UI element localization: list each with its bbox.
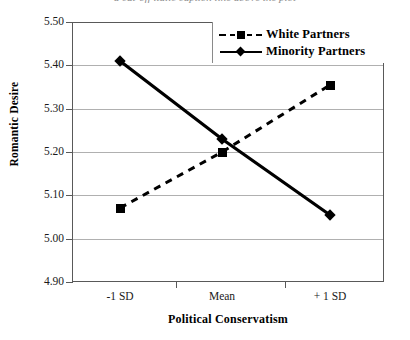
x-tick-mark-2: [285, 282, 286, 288]
legend-label-minority-partners: Minority Partners: [266, 44, 365, 59]
chart-figure: a cut-off italic caption line above the …: [0, 0, 410, 340]
gridline-530: [73, 109, 383, 110]
white-partners-point-1sd-below: [116, 204, 125, 213]
gridline-510: [73, 195, 383, 196]
y-tick-label-550: 5.50: [24, 16, 64, 28]
y-axis-title: Romantic Desire: [8, 54, 20, 194]
y-tick-label-540: 5.40: [24, 59, 64, 71]
square-marker-icon: [219, 29, 263, 41]
x-tick-label-mean: Mean: [177, 290, 267, 302]
legend-item-minority-partners[interactable]: Minority Partners: [213, 43, 384, 60]
y-tick-label-530: 5.30: [24, 103, 64, 115]
x-tick-mark-1: [176, 282, 177, 288]
diamond-marker-icon: [219, 46, 263, 58]
y-tick-mark-490: [66, 282, 73, 283]
gridline-500: [73, 239, 383, 240]
white-partners-point-mean: [218, 148, 227, 157]
gridline-520: [73, 152, 383, 153]
y-tick-label-490: 4.90: [24, 276, 64, 288]
chart-legend: White Partners Minority Partners: [212, 22, 384, 63]
legend-item-white-partners[interactable]: White Partners: [213, 26, 384, 43]
x-tick-label-plus-1-sd: + 1 SD: [285, 290, 375, 302]
x-axis-title: Political Conservatism: [72, 312, 384, 327]
y-tick-label-510: 5.10: [24, 189, 64, 201]
legend-label-white-partners: White Partners: [266, 27, 350, 42]
y-tick-label-500: 5.00: [24, 233, 64, 245]
x-tick-label-minus-1-sd: -1 SD: [75, 290, 165, 302]
y-tick-label-520: 5.20: [24, 146, 64, 158]
cut-off-title-sliver: a cut-off italic caption line above the …: [0, 0, 410, 3]
white-partners-point-1sd-above: [326, 81, 335, 90]
